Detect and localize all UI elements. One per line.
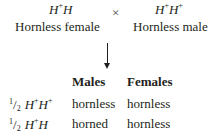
row1-males: hornless [72,96,115,112]
arrowhead-icon [104,63,110,69]
allele: H [63,2,72,17]
row2-males: horned [72,116,108,132]
allele: H [25,117,34,132]
allele-superscript: + [48,96,53,105]
fraction: 1/2 [9,97,21,112]
offspring-genotype-1: 1/2 H+H+ [9,95,52,113]
fraction-numerator: 1 [9,97,13,106]
allele: H [39,97,48,112]
genotype: H+H [25,117,48,132]
male-phenotype-label: Hornless male [133,19,208,35]
fraction-denominator: 2 [17,124,21,133]
fraction: 1/2 [9,117,21,132]
male-genotype: H+H+ [155,2,183,18]
row1-females: hornless [127,96,170,112]
row2-females: hornless [127,116,170,132]
fraction-denominator: 2 [17,104,21,113]
allele: H [169,2,178,17]
female-phenotype-label: Hornless female [15,19,100,35]
offspring-genotype-2: 1/2 H+H [9,115,48,133]
arrow-down-icon [107,43,108,65]
header-males: Males [72,74,105,90]
fraction-numerator: 1 [9,117,13,126]
allele: H [49,2,58,17]
allele-superscript: + [178,1,183,10]
allele: H [39,117,48,132]
female-genotype: H+H [49,2,72,18]
header-females: Females [127,74,172,90]
allele: H [25,97,34,112]
allele: H [155,2,164,17]
genotype: H+H+ [25,97,53,112]
cross-symbol: × [112,5,119,21]
